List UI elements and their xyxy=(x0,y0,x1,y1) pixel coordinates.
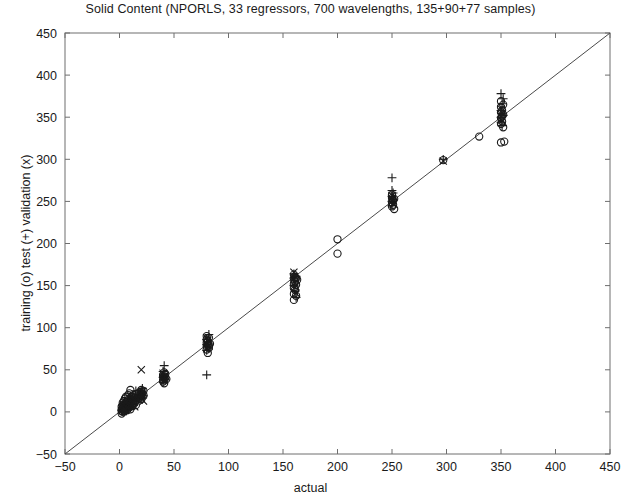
x-tick-label: 450 xyxy=(600,460,621,474)
series-o xyxy=(118,98,508,418)
x-tick-label: −50 xyxy=(54,460,75,474)
marker-plus xyxy=(388,173,397,182)
marker-cross xyxy=(138,366,145,373)
y-tick-label: 400 xyxy=(36,69,57,83)
series-+ xyxy=(117,89,507,415)
y-tick-label: 250 xyxy=(36,195,57,209)
marker-plus xyxy=(497,89,506,98)
chart-figure: Solid Content (NPORLS, 33 regressors, 70… xyxy=(0,0,621,501)
x-tick-label: 50 xyxy=(167,460,181,474)
x-tick-label: 150 xyxy=(273,460,294,474)
x-tick-label: 200 xyxy=(327,460,348,474)
x-tick-label: 300 xyxy=(436,460,457,474)
marker-plus xyxy=(499,94,508,103)
x-tick-label: 250 xyxy=(382,460,403,474)
marker-circle xyxy=(334,250,341,257)
y-axis-label: training (o) test (+) validation (x) xyxy=(19,123,33,363)
x-tick-label: 400 xyxy=(545,460,566,474)
y-tick-label: 450 xyxy=(36,27,57,41)
y-tick-label: 200 xyxy=(36,237,57,251)
marker-plus xyxy=(160,361,169,370)
y-tick-label: −50 xyxy=(36,448,57,462)
x-axis-tick-labels: −50050100150200250300350400450 xyxy=(54,460,620,474)
x-tick-label: 350 xyxy=(491,460,512,474)
x-tick-label: 0 xyxy=(116,460,123,474)
y-tick-label: 0 xyxy=(50,405,57,419)
marker-plus xyxy=(202,370,211,379)
scatter-plot: −50050100150200250300350400450 −50050100… xyxy=(0,0,621,501)
y-tick-label: 300 xyxy=(36,153,57,167)
x-axis-label: actual xyxy=(0,481,621,495)
marker-circle xyxy=(334,236,341,243)
y-tick-label: 150 xyxy=(36,279,57,293)
y-axis-tick-labels: −50050100150200250300350400450 xyxy=(36,27,57,462)
y-tick-label: 100 xyxy=(36,321,57,335)
x-tick-label: 100 xyxy=(218,460,239,474)
y-tick-label: 350 xyxy=(36,111,57,125)
y-tick-label: 50 xyxy=(43,363,57,377)
